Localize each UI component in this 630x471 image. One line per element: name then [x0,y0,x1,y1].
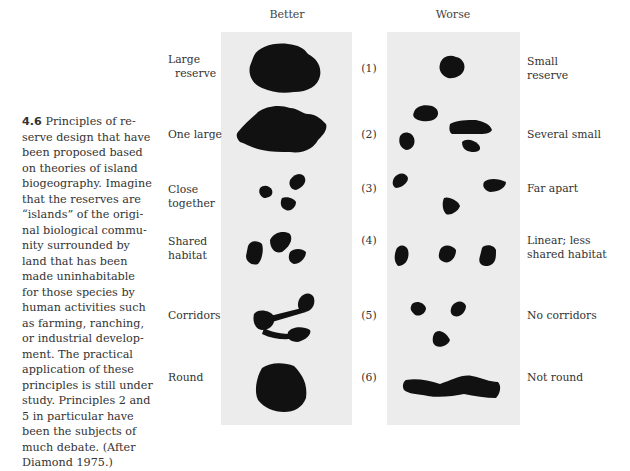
several-small-shape [462,140,480,152]
one-large-shape [237,106,327,152]
shared-habitat-shape [246,241,263,264]
no-corridors-shape [433,331,450,347]
linear-shape [395,246,409,267]
close-together-shape [259,186,272,198]
large-reserve-shape [250,44,321,93]
linear-shape [479,245,496,266]
shared-habitat-shape [270,232,291,253]
no-corridors-shape [451,302,466,317]
close-together-shape [281,197,296,210]
corridors-shape [253,310,274,330]
corridors-shape [270,308,306,322]
small-reserve-shape [439,56,464,79]
not-round-shape [403,376,500,398]
several-small-shape [449,120,492,134]
corridors-shape [287,327,310,342]
several-small-shape [399,132,414,150]
caption-line: Diamond 1975.) [22,455,162,471]
close-together-shape [289,174,305,190]
linear-shape [439,246,456,263]
far-apart-shape [393,174,408,189]
several-small-shape [413,105,438,121]
shared-habitat-shape [289,249,306,264]
far-apart-shape [443,197,460,214]
round-shape [256,363,306,412]
far-apart-shape [483,179,506,192]
no-corridors-shape [411,302,426,316]
